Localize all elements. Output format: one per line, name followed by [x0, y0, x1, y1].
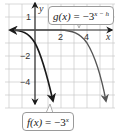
y-axis-label: y — [38, 3, 44, 14]
callout-g-equation: g(x) = −3x − h — [48, 6, 114, 25]
y-tick-1: 1 — [26, 12, 31, 22]
x-axis-label: x — [105, 31, 111, 42]
curve-f — [10, 30, 53, 101]
g-lhs: g(x) — [53, 10, 71, 22]
y-tick-neg4: −4 — [20, 77, 30, 87]
f-equals: = — [45, 116, 51, 128]
y-tick-neg2: −2 — [20, 51, 30, 61]
g-equals: = — [73, 10, 79, 22]
x-tick-2: 2 — [58, 32, 63, 42]
f-exponent: x — [66, 116, 69, 124]
g-exponent: x − h — [94, 10, 109, 18]
callout-f-equation: f(x) = −3x — [22, 112, 74, 131]
g-base: −3 — [82, 10, 94, 22]
f-lhs: f(x) — [27, 116, 42, 128]
f-base: −3 — [54, 116, 66, 128]
